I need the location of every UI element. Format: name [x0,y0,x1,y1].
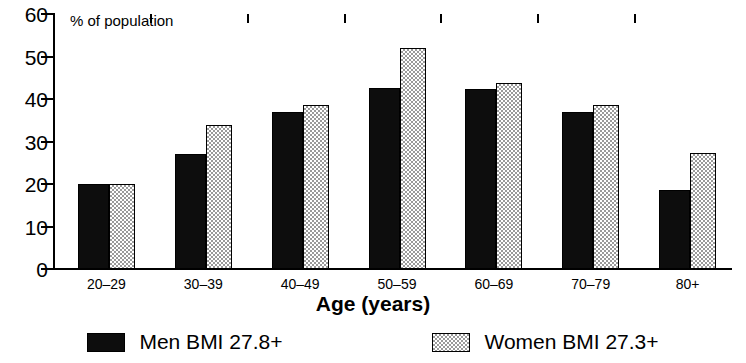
y-tick-label: 20 [25,174,48,195]
x-tick-label: 50–59 [378,276,417,292]
bar-group [659,14,716,269]
bar-men [659,190,690,269]
bar-women [400,48,426,269]
bar-women [593,105,619,269]
x-tick-label: 70–79 [571,276,610,292]
y-tick-label: 30 [25,131,48,152]
x-tick-mark [247,14,249,23]
x-tick-mark [537,14,539,23]
legend-swatch-women [432,333,470,352]
x-tick-label: 30–39 [184,276,223,292]
bar-group [465,14,522,269]
bar-chart: % of population 0102030405060 20–2930–39… [0,0,746,363]
legend-label-women: Women BMI 27.3+ [484,330,658,354]
x-tick-mark [634,14,636,23]
bar-women [496,83,522,269]
legend-label-men: Men BMI 27.8+ [139,330,282,354]
y-tick-label: 10 [25,216,48,237]
bar-women [109,184,135,269]
x-tick-mark [440,14,442,23]
bar-women [303,105,329,269]
bar-group [562,14,619,269]
bar-group [272,14,329,269]
x-tick-mark [150,14,152,23]
bar-men [175,154,206,269]
x-tick-label: 40–49 [281,276,320,292]
bar-group [369,14,426,269]
legend-item-men: Men BMI 27.8+ [87,330,282,354]
bar-group [175,14,232,269]
x-axis-title: Age (years) [0,292,746,316]
y-tick-label: 60 [25,4,48,25]
bar-women [206,125,232,270]
bar-men [562,112,593,269]
plot-area: 0102030405060 [54,14,732,269]
y-tick-label: 40 [25,89,48,110]
bar-men [465,89,496,269]
chart-legend: Men BMI 27.8+ Women BMI 27.3+ [0,330,746,354]
bar-men [78,184,109,269]
y-tick-label: 50 [25,46,48,67]
bar-men [272,112,303,269]
x-tick-label: 60–69 [474,276,513,292]
x-tick-label: 20–29 [87,276,126,292]
legend-swatch-men [87,333,125,352]
legend-item-women: Women BMI 27.3+ [432,330,658,354]
bar-group [78,14,135,269]
bar-women [690,153,716,269]
x-tick-mark [344,14,346,23]
y-tick-label: 0 [36,259,48,280]
bar-men [369,88,400,269]
x-tick-label: 80+ [676,276,700,292]
